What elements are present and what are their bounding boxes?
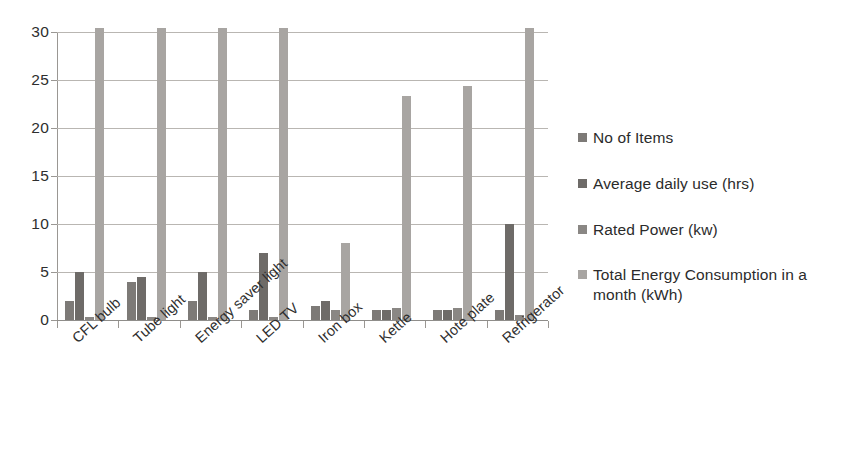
x-tick-mark xyxy=(118,321,119,328)
x-tick-mark xyxy=(241,321,242,328)
x-axis-category-label: Iron box xyxy=(315,298,365,345)
legend-label: Total Energy Consumption in a month (kWh… xyxy=(593,265,838,305)
x-tick-mark xyxy=(425,321,426,328)
legend-swatch-icon xyxy=(578,133,587,142)
x-axis-category-label: Tube light xyxy=(130,291,188,346)
x-tick-mark xyxy=(180,321,181,328)
bar-chart: 051015202530 CFL bulbTube lightEnergy sa… xyxy=(0,0,866,469)
x-axis-category-label: Hote plate xyxy=(437,289,498,346)
x-tick-mark xyxy=(487,321,488,328)
legend-swatch-icon xyxy=(578,225,587,234)
plot-wrapper: 051015202530 CFL bulbTube lightEnergy sa… xyxy=(0,0,600,469)
x-tick-mark xyxy=(303,321,304,328)
x-tick-mark xyxy=(548,321,549,328)
legend-label: No of Items xyxy=(593,128,673,148)
legend-label: Average daily use (hrs) xyxy=(593,174,754,194)
legend-item[interactable]: Rated Power (kw) xyxy=(578,220,858,240)
x-axis-category-label: Refrigerator xyxy=(499,282,567,346)
x-axis-category-label: Kettle xyxy=(376,309,415,346)
x-axis-category-label: LED TV xyxy=(253,300,302,346)
legend-item[interactable]: Average daily use (hrs) xyxy=(578,174,858,194)
legend-item[interactable]: Total Energy Consumption in a month (kWh… xyxy=(578,265,858,305)
x-tick-mark xyxy=(364,321,365,328)
legend-swatch-icon xyxy=(578,270,587,279)
legend-swatch-icon xyxy=(578,179,587,188)
x-axis-labels: CFL bulbTube lightEnergy saver lightLED … xyxy=(0,0,600,469)
chart-legend: No of ItemsAverage daily use (hrs)Rated … xyxy=(578,128,858,331)
legend-item[interactable]: No of Items xyxy=(578,128,858,148)
legend-label: Rated Power (kw) xyxy=(593,220,718,240)
x-axis-category-label: CFL bulb xyxy=(69,294,124,345)
x-tick-mark xyxy=(57,321,58,328)
